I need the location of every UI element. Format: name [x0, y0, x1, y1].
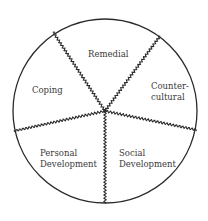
segmented-circle-diagram [0, 0, 208, 221]
segment-label-social-development: Social Development [119, 148, 176, 169]
segment-label-remedial: Remedial [88, 49, 128, 60]
segment-label-coping: Coping [32, 85, 63, 96]
divider-personal-coping [14, 110, 105, 132]
segment-label-personal-development: Personal Development [40, 148, 97, 169]
segment-label-counter-cultural: Counter- cultural [151, 81, 189, 102]
divider-coping-remedial [53, 32, 106, 111]
divider-social-personal [104, 111, 106, 203]
divider-counter-cultural-social [105, 110, 197, 130]
